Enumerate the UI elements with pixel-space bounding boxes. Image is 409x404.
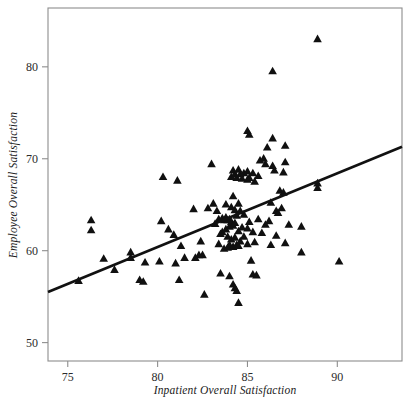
data-point [216, 269, 225, 277]
y-axis-ticks [42, 67, 48, 343]
scatter-chart: 50607080 75808590 Inpatient Overall Sati… [0, 0, 409, 404]
data-point [247, 256, 256, 264]
data-point [87, 216, 96, 224]
data-point [196, 237, 205, 245]
data-point [180, 253, 189, 261]
x-tick-label: 90 [331, 370, 343, 384]
data-point [313, 35, 322, 43]
chart-canvas: 50607080 75808590 Inpatient Overall Sati… [0, 0, 409, 404]
y-axis-title: Employee Overall Satisfaction [7, 112, 20, 259]
data-point [243, 240, 252, 248]
data-point [225, 272, 234, 280]
data-point [209, 199, 218, 207]
data-point [177, 241, 186, 249]
data-point [297, 222, 306, 230]
plot-frame [48, 8, 402, 361]
data-point [157, 217, 166, 225]
data-point [268, 161, 277, 169]
data-point [207, 160, 216, 168]
data-point [250, 238, 259, 246]
data-point [281, 239, 290, 247]
y-tick-label: 50 [26, 336, 38, 350]
data-point [265, 217, 274, 225]
y-tick-label: 80 [26, 60, 38, 74]
data-point [335, 257, 344, 265]
x-tick-label: 85 [241, 370, 253, 384]
data-point [173, 176, 182, 184]
data-point [281, 158, 290, 166]
data-point [268, 134, 277, 142]
y-axis-tick-labels: 50607080 [26, 60, 38, 350]
data-point [281, 141, 290, 149]
data-point [99, 254, 108, 262]
data-point [234, 298, 243, 306]
data-point [141, 258, 150, 266]
data-point [263, 143, 272, 151]
data-point [234, 199, 243, 207]
x-tick-label: 75 [62, 370, 74, 384]
data-point [164, 225, 173, 233]
data-point [277, 204, 286, 212]
data-point [279, 168, 288, 176]
regression-line [48, 147, 402, 292]
data-point [297, 248, 306, 256]
data-point [229, 192, 238, 200]
data-point [222, 200, 231, 208]
data-point [245, 217, 254, 225]
x-axis-tick-labels: 75808590 [62, 370, 344, 384]
data-point [200, 290, 209, 298]
y-tick-label: 60 [26, 244, 38, 258]
data-point [171, 259, 180, 267]
data-point [87, 226, 96, 234]
data-point [254, 215, 263, 223]
data-point [268, 67, 277, 75]
data-point [272, 231, 281, 239]
data-point [175, 275, 184, 283]
x-axis-ticks [68, 361, 338, 367]
data-point [159, 172, 168, 180]
x-axis-title: Inpatient Overall Satisfaction [153, 384, 297, 397]
data-point [189, 205, 198, 213]
data-point [284, 220, 293, 228]
data-point [155, 257, 164, 265]
data-point [213, 206, 222, 214]
x-tick-label: 80 [152, 370, 164, 384]
data-point [267, 240, 276, 248]
data-point [214, 240, 223, 248]
y-tick-label: 70 [26, 152, 38, 166]
data-point [258, 229, 267, 237]
data-point [234, 165, 243, 173]
